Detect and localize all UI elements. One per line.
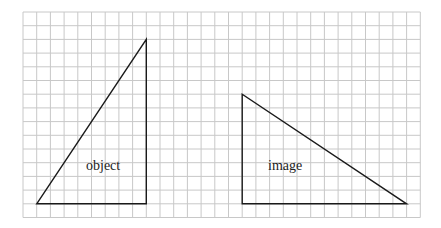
transformation-diagram: object image <box>0 0 441 228</box>
grid-lines <box>23 12 420 218</box>
object-label: object <box>86 158 120 173</box>
image-label: image <box>268 158 302 173</box>
